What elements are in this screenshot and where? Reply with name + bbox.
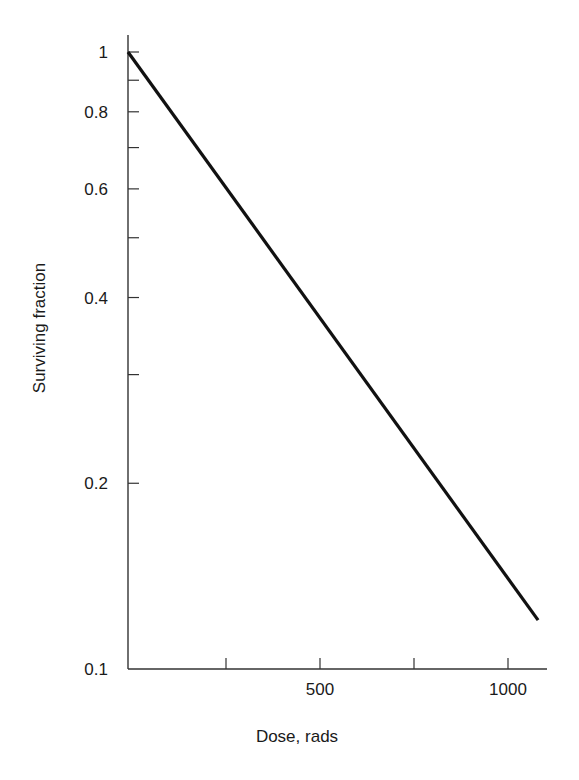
- axes: [128, 35, 547, 669]
- y-tick-label: 0.6: [84, 180, 108, 199]
- x-tick-label: 1000: [489, 680, 527, 699]
- survival-curve-line: [128, 52, 538, 620]
- x-axis-label: Dose, rads: [256, 727, 338, 746]
- y-tick-label: 0.2: [84, 474, 108, 493]
- x-tick-label: 500: [306, 680, 334, 699]
- y-axis-label: Surviving fraction: [30, 263, 49, 393]
- y-tick-label: 1: [99, 43, 108, 62]
- y-tick-label: 0.1: [84, 660, 108, 679]
- survival-chart: 10.80.60.40.20.15001000 Dose, rads Survi…: [0, 0, 579, 780]
- ticks: 10.80.60.40.20.15001000: [84, 43, 527, 699]
- y-tick-label: 0.8: [84, 103, 108, 122]
- y-tick-label: 0.4: [84, 289, 108, 308]
- data-series: [128, 52, 538, 620]
